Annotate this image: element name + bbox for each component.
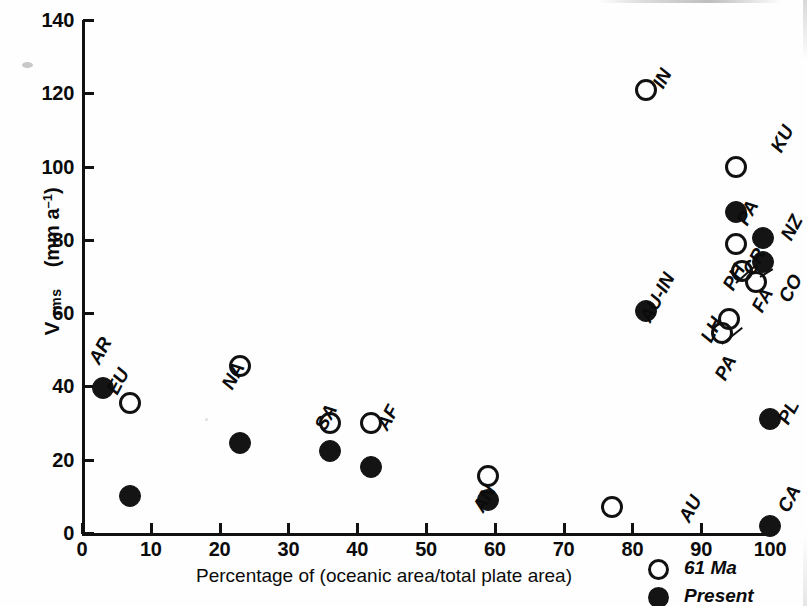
filled-circle-icon xyxy=(648,587,669,606)
y-tick xyxy=(83,92,94,95)
x-tick xyxy=(219,523,222,534)
point-label-ku: KU xyxy=(766,122,798,157)
point-label-an: AN xyxy=(468,482,500,517)
x-tick-label: 60 xyxy=(484,538,506,561)
data-point-sa-present xyxy=(319,440,341,462)
point-label-au-in: AU-IN xyxy=(635,269,679,326)
data-point-cr-61ma xyxy=(725,233,747,255)
y-tick-label: 0 xyxy=(10,522,74,545)
y-tick xyxy=(83,19,94,22)
legend-item-present: Present xyxy=(648,584,807,606)
x-tick xyxy=(494,523,497,534)
y-tick xyxy=(83,312,94,315)
x-tick-label: 40 xyxy=(346,538,368,561)
y-tick-label: 120 xyxy=(10,82,74,105)
x-tick-label: 80 xyxy=(622,538,644,561)
open-circle-icon xyxy=(648,559,669,580)
data-point-ca-present xyxy=(759,515,781,537)
point-label-ar: AR xyxy=(84,334,116,369)
x-tick-label: 20 xyxy=(209,538,231,561)
point-label-ca: CA xyxy=(773,482,805,517)
x-tick-label: 10 xyxy=(140,538,162,561)
x-tick xyxy=(356,523,359,534)
x-tick-label: 30 xyxy=(278,538,300,561)
legend: 61 MaPresent xyxy=(648,556,807,606)
x-tick-label: 50 xyxy=(415,538,437,561)
x-tick xyxy=(563,523,566,534)
y-tick-label: 40 xyxy=(10,375,74,398)
data-point-af-present xyxy=(360,456,382,478)
x-tick xyxy=(81,523,84,534)
y-tick-label: 140 xyxy=(10,9,74,32)
y-axis-unit-label: (mm a–1) xyxy=(40,157,65,297)
data-point-ku-61ma xyxy=(725,156,747,178)
legend-item-61ma: 61 Ma xyxy=(648,556,807,584)
point-label-pa: PA xyxy=(710,352,741,384)
y-tick xyxy=(83,459,94,462)
x-tick xyxy=(631,523,634,534)
x-tick-label: 0 xyxy=(77,538,88,561)
x-axis-title: Percentage of (oceanic area/total plate … xyxy=(196,565,572,587)
x-tick xyxy=(425,523,428,534)
y-tick xyxy=(83,239,94,242)
x-tick-label: 70 xyxy=(553,538,575,561)
data-point-au-61ma xyxy=(601,496,623,518)
chart-page: 020406080100120140 010203040506070809010… xyxy=(0,0,807,606)
scatter-plot: 020406080100120140 010203040506070809010… xyxy=(0,0,807,606)
point-label-nz: NZ xyxy=(776,211,807,244)
y-tick xyxy=(83,166,94,169)
y-tick-label: 20 xyxy=(10,448,74,471)
legend-label: Present xyxy=(684,585,754,606)
data-point-na-present xyxy=(229,432,251,454)
data-point-nz-present xyxy=(752,227,774,249)
y-tick xyxy=(83,532,94,535)
x-tick xyxy=(150,523,153,534)
data-point-eu-present xyxy=(119,485,141,507)
legend-label: 61 Ma xyxy=(684,557,737,579)
point-label-co: CO xyxy=(774,271,807,306)
x-tick xyxy=(287,523,290,534)
x-tick xyxy=(700,523,703,534)
point-label-au: AU xyxy=(674,492,706,527)
